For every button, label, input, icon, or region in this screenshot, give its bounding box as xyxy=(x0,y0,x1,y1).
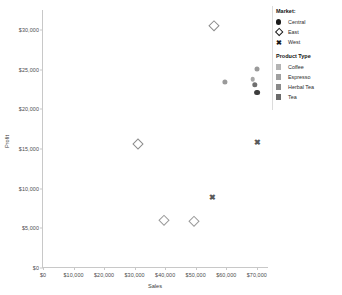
data-point[interactable] xyxy=(255,66,260,71)
scatter-chart: Profit Sales $0$5,000$10,000$15,000$20,0… xyxy=(0,0,342,295)
legend-label-espresso: Espresso xyxy=(288,74,310,80)
legend-item-espresso[interactable]: Espresso xyxy=(276,72,340,82)
legend-item-east[interactable]: East xyxy=(276,27,340,37)
x-axis-title: Sales xyxy=(42,283,268,289)
legend-label-tea: Tea xyxy=(288,94,297,100)
swatch-icon-espresso xyxy=(276,74,288,79)
legend-group-product-type: Product Type Coffee Espresso Herbal Tea … xyxy=(276,53,340,102)
data-point[interactable]: ✖ xyxy=(209,195,215,201)
legend-item-central[interactable]: Central xyxy=(276,17,340,27)
chart-legend: Market: Central East ✖ West Product Type… xyxy=(276,8,340,108)
data-point[interactable] xyxy=(250,77,255,82)
x-axis-tick-mark xyxy=(196,267,197,270)
legend-item-tea[interactable]: Tea xyxy=(276,92,340,102)
filled-circle-icon xyxy=(276,19,288,24)
x-axis-tick-mark xyxy=(226,267,227,270)
plot-area: $0$5,000$10,000$15,000$20,000$25,000$30,… xyxy=(43,10,268,267)
data-point[interactable] xyxy=(158,214,169,225)
legend-label-east: East xyxy=(288,29,299,35)
swatch-icon-coffee xyxy=(276,64,288,69)
swatch-icon-tea xyxy=(276,94,288,99)
x-axis-tick-mark xyxy=(43,267,44,270)
legend-label-coffee: Coffee xyxy=(288,64,304,70)
data-point[interactable] xyxy=(254,90,260,96)
data-point[interactable] xyxy=(189,216,200,227)
plot-frame: $0$5,000$10,000$15,000$20,000$25,000$30,… xyxy=(42,10,268,268)
x-axis-tick-mark xyxy=(104,267,105,270)
legend-label-central: Central xyxy=(288,19,305,25)
legend-label-herbal-tea: Herbal Tea xyxy=(288,84,314,90)
open-diamond-icon xyxy=(276,29,288,35)
legend-label-west: West xyxy=(288,39,300,45)
y-axis-tick-mark xyxy=(40,148,43,149)
legend-item-coffee[interactable]: Coffee xyxy=(276,62,340,72)
x-axis-tick-mark xyxy=(135,267,136,270)
swatch-icon-herbal-tea xyxy=(276,84,288,89)
legend-item-herbal-tea[interactable]: Herbal Tea xyxy=(276,82,340,92)
x-axis-tick-mark xyxy=(165,267,166,270)
y-axis-tick-mark xyxy=(40,29,43,30)
y-axis-tick-mark xyxy=(40,69,43,70)
y-axis-title: Profit xyxy=(4,135,10,148)
x-axis-tick-mark xyxy=(74,267,75,270)
data-point[interactable] xyxy=(132,138,143,149)
legend-title-market: Market: xyxy=(276,8,340,14)
legend-title-product-type: Product Type xyxy=(276,53,340,59)
data-point[interactable] xyxy=(208,20,220,32)
cross-icon: ✖ xyxy=(276,39,288,46)
legend-item-west[interactable]: ✖ West xyxy=(276,37,340,47)
y-axis-tick-mark xyxy=(40,109,43,110)
legend-divider xyxy=(272,6,273,110)
data-point[interactable]: ✖ xyxy=(254,139,261,146)
y-axis-tick-mark xyxy=(40,188,43,189)
x-axis-tick-mark xyxy=(257,267,258,270)
legend-group-market: Market: Central East ✖ West xyxy=(276,8,340,47)
data-point[interactable] xyxy=(222,80,227,85)
y-axis-tick-mark xyxy=(40,228,43,229)
data-point[interactable] xyxy=(252,82,257,87)
